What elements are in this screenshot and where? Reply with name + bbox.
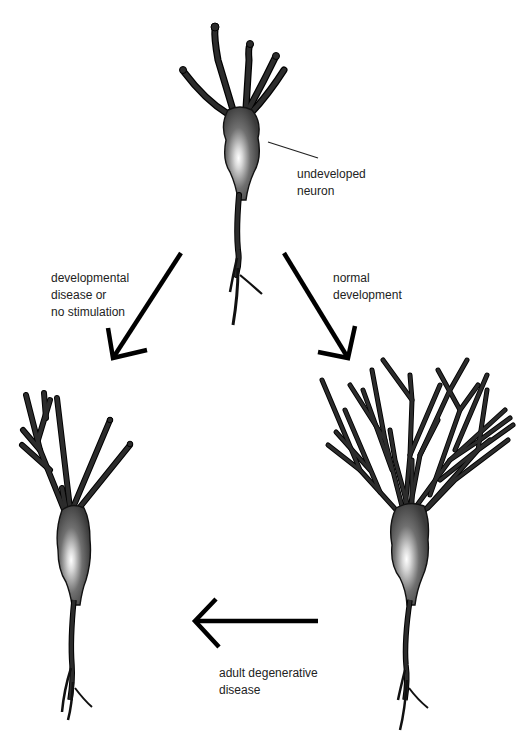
arrow-degeneration: [195, 599, 318, 647]
developed-neuron: [322, 360, 513, 730]
arrow-to-developed: [284, 253, 355, 358]
label-undeveloped-neuron: undeveloped neuron: [297, 166, 366, 200]
label-developmental-disease: developmental disease or no stimulation: [51, 270, 129, 321]
undeveloped-neuron: [180, 23, 285, 325]
stunted-neuron: [22, 393, 133, 720]
undeveloped-label-leader: [268, 142, 318, 158]
label-normal-development: normal development: [333, 270, 402, 304]
diagram-canvas: [0, 0, 519, 744]
label-adult-degenerative-disease: adult degenerative disease: [219, 665, 318, 699]
